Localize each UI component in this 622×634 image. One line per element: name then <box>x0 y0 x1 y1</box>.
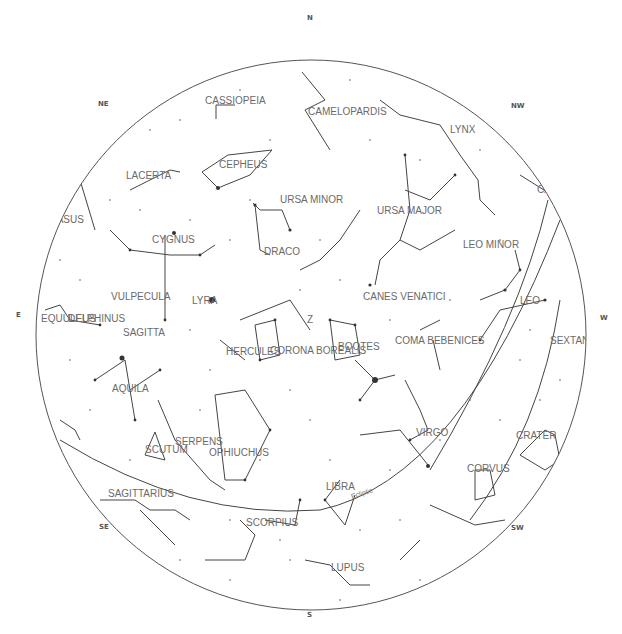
label-corvus[interactable]: CORVUS <box>467 463 510 474</box>
label-camelopardis[interactable]: CAMELOPARDIS <box>308 106 387 117</box>
label-sagittarius[interactable]: SAGITTARIUS <box>108 488 174 499</box>
label-virgo[interactable]: VIRGO <box>416 427 448 438</box>
compass-n: N <box>307 14 313 22</box>
label-ursa-minor[interactable]: URSA MINOR <box>280 194 343 205</box>
label-ophiuchus[interactable]: OPHIUCHUS <box>209 447 269 458</box>
label-crater[interactable]: CRATER <box>516 430 556 441</box>
label-cepheus[interactable]: CEPHEUS <box>219 159 268 170</box>
label-draco[interactable]: DRACO <box>264 246 300 257</box>
label-aquila[interactable]: AQUILA <box>112 383 149 394</box>
compass-sw: SW <box>511 524 524 532</box>
label-leo-minor[interactable]: LEO MINOR <box>463 239 519 250</box>
label-lacerta[interactable]: LACERTA <box>126 170 172 181</box>
label-delphinus[interactable]: DELPHINUS <box>68 313 126 324</box>
label-zenith[interactable]: Z <box>307 314 313 325</box>
label-sextans[interactable]: SEXTAN <box>550 335 589 346</box>
label-cancer[interactable]: CAN <box>537 184 558 195</box>
horizon-circle <box>36 60 586 610</box>
label-vulpecula[interactable]: VULPECULA <box>111 291 171 302</box>
label-libra[interactable]: LIBRA <box>326 481 355 492</box>
label-pegasus[interactable]: SASUS <box>50 214 84 225</box>
compass-w: W <box>600 314 608 322</box>
label-scorpius[interactable]: SCORPIUS <box>246 517 299 528</box>
compass-se: SE <box>99 523 109 531</box>
label-coma-berenices[interactable]: COMA BEBENICES <box>395 335 485 346</box>
label-leo[interactable]: LEO <box>520 295 540 306</box>
label-lupus[interactable]: LUPUS <box>331 562 365 573</box>
label-corona-borealis[interactable]: CORONA BOREALIS <box>270 345 366 356</box>
label-sagitta[interactable]: SAGITTA <box>123 327 165 338</box>
star-chart[interactable]: CASSIOPEIA CAMELOPARDIS LYNX CEPHEUS LAC… <box>0 0 622 634</box>
label-lyra[interactable]: LYRA <box>192 295 218 306</box>
compass-s: S <box>307 611 312 619</box>
compass-nw: NW <box>511 102 525 110</box>
label-cassiopeia[interactable]: CASSIOPEIA <box>205 95 266 106</box>
label-canes-venatici[interactable]: CANES VENATICI <box>363 291 446 302</box>
label-ursa-major[interactable]: URSA MAJOR <box>377 205 442 216</box>
label-lynx[interactable]: LYNX <box>450 124 476 135</box>
label-scutum[interactable]: SCUTUM <box>145 444 188 455</box>
label-cygnus[interactable]: CYGNUS <box>152 234 195 245</box>
compass-e: E <box>16 311 21 319</box>
compass-ne: NE <box>98 100 109 108</box>
